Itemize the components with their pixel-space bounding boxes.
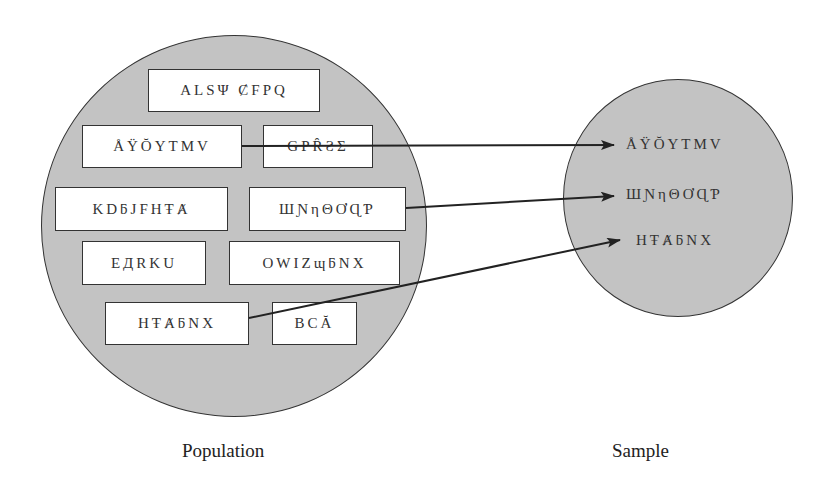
population-item-box: HŦȺƃNX bbox=[105, 302, 249, 345]
population-item-text: ШƝηΘƠɊƤ bbox=[279, 201, 376, 218]
population-item-text: ÅŸŎYTMV bbox=[113, 138, 211, 155]
sampling-diagram: ALSΨ ȻFPQ ÅŸŎYTMV GPȒƧΣ KDƃJFHŦȺ ШƝηΘƠɊƤ… bbox=[0, 0, 830, 490]
population-item-text: KDƃJFHŦȺ bbox=[92, 201, 190, 218]
population-label: Population bbox=[182, 440, 264, 462]
population-item-text: EДRKU bbox=[111, 255, 177, 272]
population-item-box: ШƝηΘƠɊƤ bbox=[249, 187, 406, 231]
population-item-text: GPȒƧΣ bbox=[287, 138, 348, 155]
population-item-box: OWIZɰƃNX bbox=[229, 241, 400, 285]
population-item-box: GPȒƧΣ bbox=[263, 125, 373, 168]
population-item-box: BCĂ bbox=[272, 302, 357, 345]
population-item-box: ÅŸŎYTMV bbox=[82, 125, 242, 168]
sample-label: Sample bbox=[612, 440, 669, 462]
sample-item-text: ШƝηΘƠɊƤ bbox=[626, 186, 723, 203]
population-item-box: EДRKU bbox=[82, 241, 206, 285]
population-item-text: BCĂ bbox=[295, 315, 335, 332]
population-item-box: ALSΨ ȻFPQ bbox=[148, 69, 320, 112]
population-item-text: HŦȺƃNX bbox=[138, 315, 216, 332]
population-item-text: ALSΨ ȻFPQ bbox=[180, 82, 288, 99]
population-item-box: KDƃJFHŦȺ bbox=[55, 187, 228, 231]
sample-item-text: ÅŸŎYTMV bbox=[626, 136, 724, 153]
population-item-text: OWIZɰƃNX bbox=[263, 255, 367, 272]
sample-item-text: HŦȺƃNX bbox=[636, 232, 714, 249]
